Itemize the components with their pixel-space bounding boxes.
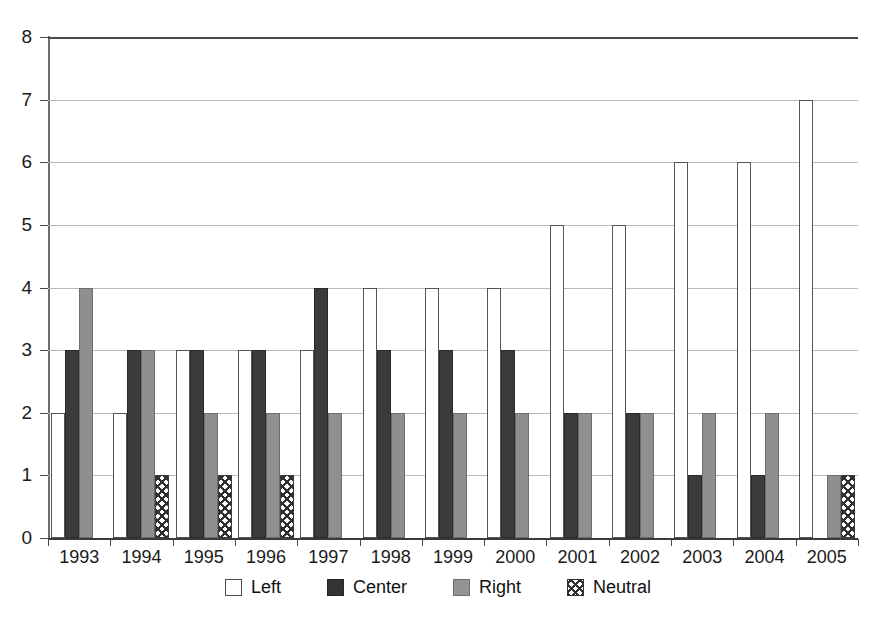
bar-left bbox=[238, 350, 252, 538]
bar-left bbox=[737, 162, 751, 538]
bar-center bbox=[501, 350, 515, 538]
legend-item-neutral[interactable]: Neutral bbox=[567, 578, 651, 596]
x-axis-tick bbox=[858, 539, 859, 546]
gridline bbox=[48, 100, 858, 101]
y-axis-tick-label: 7 bbox=[6, 90, 32, 109]
legend-item-right[interactable]: Right bbox=[453, 578, 521, 596]
bar-center bbox=[377, 350, 391, 538]
bar-left bbox=[300, 350, 314, 538]
gridline bbox=[48, 37, 858, 39]
y-axis-tick bbox=[40, 225, 48, 226]
x-axis-tick bbox=[48, 539, 49, 546]
x-axis-tick-label: 2005 bbox=[796, 547, 858, 567]
x-axis-tick-label: 2001 bbox=[546, 547, 608, 567]
bar-center bbox=[626, 413, 640, 538]
bar-right bbox=[204, 413, 218, 538]
y-axis-tick bbox=[40, 538, 48, 539]
y-axis-tick-label: 4 bbox=[6, 278, 32, 297]
bar-neutral bbox=[218, 475, 232, 538]
x-axis-tick bbox=[733, 539, 734, 546]
bar-neutral bbox=[841, 475, 855, 538]
legend-item-label: Right bbox=[479, 578, 521, 596]
bar-center bbox=[751, 475, 765, 538]
bar-left bbox=[799, 100, 813, 538]
x-axis-tick bbox=[235, 539, 236, 546]
legend-item-center[interactable]: Center bbox=[327, 578, 407, 596]
x-axis-tick bbox=[297, 539, 298, 546]
x-axis-tick-label: 1999 bbox=[422, 547, 484, 567]
bar-center bbox=[252, 350, 266, 538]
x-axis-tick-label: 2003 bbox=[671, 547, 733, 567]
bar-left bbox=[425, 288, 439, 539]
x-axis-tick-label: 1995 bbox=[173, 547, 235, 567]
bar-right bbox=[702, 413, 716, 538]
x-axis-tick-label: 2000 bbox=[484, 547, 546, 567]
grouped-bar-chart: 012345678 199319941995199619971998199920… bbox=[0, 0, 876, 620]
swatch-right-gray-icon bbox=[453, 579, 470, 596]
x-axis-tick bbox=[422, 539, 423, 546]
bar-left bbox=[612, 225, 626, 538]
swatch-center-dark-icon bbox=[327, 579, 344, 596]
legend-item-label: Center bbox=[353, 578, 407, 596]
x-axis-tick-label: 1998 bbox=[360, 547, 422, 567]
x-axis-tick-label: 1994 bbox=[110, 547, 172, 567]
bar-right bbox=[578, 413, 592, 538]
bar-center bbox=[65, 350, 79, 538]
chart-legend: LeftCenterRightNeutral bbox=[0, 578, 876, 596]
x-axis-tick-label: 2004 bbox=[733, 547, 795, 567]
y-axis-tick-label: 8 bbox=[6, 27, 32, 46]
bar-right bbox=[827, 475, 841, 538]
bar-right bbox=[141, 350, 155, 538]
x-axis-tick bbox=[360, 539, 361, 546]
bar-right bbox=[266, 413, 280, 538]
y-axis-tick-label: 1 bbox=[6, 465, 32, 484]
bar-left bbox=[113, 413, 127, 538]
y-axis-tick-label: 0 bbox=[6, 528, 32, 547]
bar-right bbox=[765, 413, 779, 538]
x-axis-tick bbox=[796, 539, 797, 546]
y-axis-tick-label: 3 bbox=[6, 340, 32, 359]
y-axis-tick bbox=[40, 350, 48, 351]
axis-baseline bbox=[48, 538, 858, 540]
x-axis-tick bbox=[609, 539, 610, 546]
legend-item-label: Neutral bbox=[593, 578, 651, 596]
y-axis-tick-label: 5 bbox=[6, 215, 32, 234]
x-axis-tick bbox=[484, 539, 485, 546]
bar-left bbox=[550, 225, 564, 538]
plot-area bbox=[48, 37, 858, 538]
bar-left bbox=[674, 162, 688, 538]
bar-center bbox=[127, 350, 141, 538]
bar-left bbox=[363, 288, 377, 539]
y-axis-tick bbox=[40, 37, 48, 38]
bar-right bbox=[391, 413, 405, 538]
y-axis-tick bbox=[40, 288, 48, 289]
bar-right bbox=[515, 413, 529, 538]
bar-right bbox=[640, 413, 654, 538]
bar-center bbox=[439, 350, 453, 538]
bar-left bbox=[487, 288, 501, 539]
bar-center bbox=[190, 350, 204, 538]
bar-center bbox=[314, 288, 328, 539]
y-axis-tick bbox=[40, 100, 48, 101]
swatch-neutral-crosshatch-icon bbox=[567, 579, 584, 596]
bar-center bbox=[688, 475, 702, 538]
bar-right bbox=[453, 413, 467, 538]
x-axis-tick-label: 2002 bbox=[609, 547, 671, 567]
x-axis-tick-label: 1996 bbox=[235, 547, 297, 567]
bar-neutral bbox=[155, 475, 169, 538]
bar-left bbox=[176, 350, 190, 538]
bar-right bbox=[79, 288, 93, 539]
y-axis-tick bbox=[40, 475, 48, 476]
y-axis-tick bbox=[40, 413, 48, 414]
x-axis-tick-label: 1993 bbox=[48, 547, 110, 567]
swatch-left-outline-icon bbox=[225, 579, 242, 596]
legend-item-label: Left bbox=[251, 578, 281, 596]
x-axis-tick bbox=[671, 539, 672, 546]
bar-right bbox=[328, 413, 342, 538]
legend-item-left[interactable]: Left bbox=[225, 578, 281, 596]
bar-left bbox=[51, 413, 65, 538]
bar-center bbox=[564, 413, 578, 538]
y-axis-tick bbox=[40, 162, 48, 163]
y-axis-tick-label: 6 bbox=[6, 152, 32, 171]
x-axis-tick-label: 1997 bbox=[297, 547, 359, 567]
